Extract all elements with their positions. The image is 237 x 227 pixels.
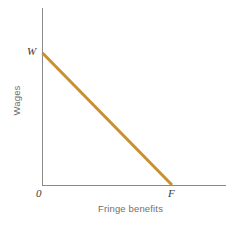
fringe-intercept-label: F: [168, 187, 175, 199]
wage-intercept-label: W: [27, 45, 36, 57]
tradeoff-line: [43, 53, 173, 185]
x-axis-title: Fringe benefits: [0, 203, 237, 214]
y-axis-title: Wages: [11, 71, 22, 131]
chart-figure: W 0 F Wages Fringe benefits: [0, 0, 237, 227]
origin-label: 0: [36, 187, 42, 199]
